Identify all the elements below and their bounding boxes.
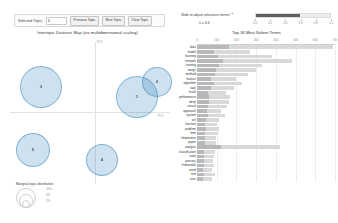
marginal-legend-title: Marginal topic distribution bbox=[16, 182, 86, 186]
bar-topic-frequency bbox=[197, 177, 203, 181]
lambda-value-label: λ = 0.6 bbox=[199, 21, 210, 25]
intertopic-distance-map-panel: Intertopic Distance Map (via multidimens… bbox=[0, 30, 175, 223]
bar-topic-frequency bbox=[197, 109, 207, 113]
bar-topic-frequency bbox=[197, 105, 208, 109]
salient-terms-title: Top-30 Most Salient Terms bbox=[175, 30, 338, 35]
pyldavis-dashboard: Selected Topic: Previous Topic Next Topi… bbox=[0, 0, 338, 223]
slider-ticklabel-0.6: 0.6 bbox=[299, 21, 303, 25]
bar-topic-frequency bbox=[197, 123, 205, 127]
term-label: user bbox=[190, 177, 196, 182]
bar-topic-frequency bbox=[197, 114, 208, 118]
slider-ticklabel-0.2: 0.2 bbox=[268, 21, 272, 25]
x-tick-100: 100 bbox=[214, 38, 219, 42]
marginal-circle-10% bbox=[16, 188, 36, 208]
intertopic-map-title: Intertopic Distance Map (via multidimens… bbox=[0, 30, 175, 35]
x-tick-600: 600 bbox=[313, 38, 318, 42]
axis-tick-pc1: PC1 bbox=[158, 114, 164, 118]
bar-topic-frequency bbox=[197, 86, 211, 90]
bar-topic-frequency bbox=[197, 141, 205, 145]
x-tick-700: 700 bbox=[333, 38, 338, 42]
bar-topic-frequency bbox=[197, 68, 216, 72]
previous-topic-button[interactable]: Previous Topic bbox=[70, 16, 99, 26]
bar-topic-frequency bbox=[197, 127, 206, 131]
bar-topic-frequency bbox=[197, 150, 204, 154]
relevance-slider-text: Slide to adjust relevance metric: bbox=[181, 13, 231, 17]
slider-ticklabel-0.4: 0.4 bbox=[283, 21, 287, 25]
topic-number-1: 1 bbox=[136, 95, 138, 99]
bar-topic-frequency bbox=[197, 159, 204, 163]
topic-number-4: 4 bbox=[101, 158, 103, 162]
bar-topic-frequency bbox=[197, 91, 208, 95]
bar-topic-frequency bbox=[197, 168, 203, 172]
topic-number-3: 3 bbox=[40, 85, 42, 89]
x-tick-300: 300 bbox=[254, 38, 259, 42]
bar-topic-frequency bbox=[197, 155, 204, 159]
bar-topic-frequency bbox=[197, 173, 204, 177]
salient-terms-panel: Slide to adjust relevance metric:(2) λ =… bbox=[175, 0, 338, 223]
bar-topic-frequency bbox=[197, 136, 205, 140]
relevance-slider[interactable] bbox=[255, 13, 331, 18]
bar-topic-frequency bbox=[197, 64, 219, 68]
salient-terms-barchart: 0100200300400500600700 datamodellearning… bbox=[177, 38, 337, 186]
slider-ticklabel-0.0: 0.0 bbox=[253, 21, 257, 25]
axis-tick-pc2: PC2 bbox=[97, 40, 103, 44]
bar-topic-frequency bbox=[197, 82, 214, 86]
bar-topic-frequency bbox=[197, 45, 229, 49]
clear-topic-button[interactable]: Clear Topic bbox=[128, 16, 152, 26]
bar-topic-frequency bbox=[197, 77, 211, 81]
bar-topic-frequency bbox=[197, 59, 223, 63]
bar-topic-frequency bbox=[197, 100, 209, 104]
marginal-label-5%: 5% bbox=[46, 193, 50, 197]
bar-row[interactable]: user bbox=[177, 177, 337, 182]
next-topic-button[interactable]: Next Topic bbox=[102, 16, 125, 26]
bar-topic-frequency bbox=[197, 145, 221, 149]
bar-topic-frequency bbox=[197, 50, 214, 54]
topic-number-2: 2 bbox=[156, 80, 158, 84]
slider-ticklabel-0.8: 0.8 bbox=[314, 21, 318, 25]
selected-topic-label: Selected Topic: bbox=[18, 19, 43, 23]
bar-topic-frequency bbox=[197, 73, 215, 77]
x-tick-200: 200 bbox=[234, 38, 239, 42]
bar-topic-frequency bbox=[197, 164, 204, 168]
topic-control-bar: Selected Topic: Previous Topic Next Topi… bbox=[14, 14, 165, 27]
x-tick-0: 0 bbox=[196, 38, 198, 42]
bar-topic-frequency bbox=[197, 118, 206, 122]
bar-topic-frequency bbox=[197, 95, 209, 99]
selected-topic-input[interactable] bbox=[46, 17, 67, 25]
marginal-label-10%: 10% bbox=[46, 187, 52, 191]
x-tick-500: 500 bbox=[293, 38, 298, 42]
marginal-topic-distribution-legend: Marginal topic distribution 2%5%10% bbox=[16, 182, 86, 223]
marginal-label-2%: 2% bbox=[46, 199, 50, 203]
mds-scatter-plot[interactable]: PC2 PC1 35412 bbox=[8, 40, 171, 185]
relevance-slider-fill bbox=[256, 14, 300, 17]
topic-number-5: 5 bbox=[32, 148, 34, 152]
bar-topic-frequency bbox=[197, 132, 205, 136]
x-tick-400: 400 bbox=[273, 38, 278, 42]
bar-topic-frequency bbox=[197, 55, 218, 59]
relevance-slider-ticks: 0.00.20.40.60.81.0 bbox=[255, 19, 331, 26]
relevance-footnote-marker: (2) bbox=[231, 12, 234, 15]
barchart-rows: datamodellearningnetworktrainingimagemet… bbox=[177, 45, 337, 181]
slider-ticklabel-1.0: 1.0 bbox=[329, 21, 333, 25]
relevance-slider-label: Slide to adjust relevance metric:(2) bbox=[181, 12, 234, 17]
